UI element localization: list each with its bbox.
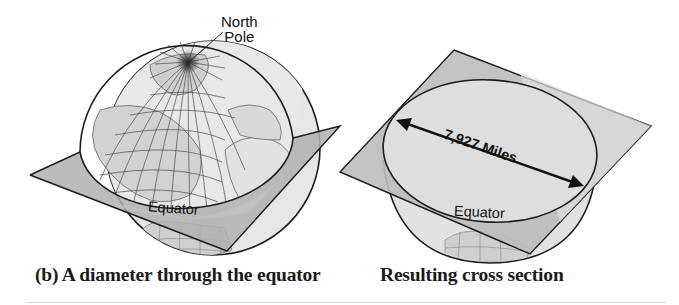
- figure-illustration: [0, 0, 679, 305]
- north-pole-label: North Pole: [221, 14, 258, 44]
- caption-right: Resulting cross section: [380, 264, 564, 286]
- north-pole-point: [176, 50, 200, 74]
- north-pole-label-line1: North: [221, 14, 258, 29]
- caption-left: (b) A diameter through the equator: [35, 264, 321, 286]
- figure: North Pole Equator 7,927 Miles Equator (…: [0, 0, 679, 305]
- equator-label-left: Equator: [148, 198, 200, 218]
- north-pole-label-line2: Pole: [221, 29, 258, 44]
- equator-label-right: Equator: [454, 203, 506, 222]
- globe-with-plane: [30, 32, 340, 260]
- bottom-rule: [26, 302, 666, 303]
